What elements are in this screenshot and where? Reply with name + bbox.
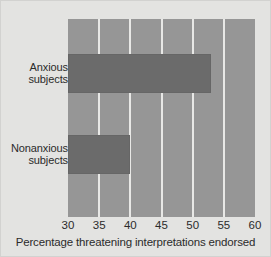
category-label: Anxioussubjects bbox=[0, 61, 68, 86]
category-label-line: subjects bbox=[0, 73, 68, 86]
x-tick-label: 60 bbox=[249, 219, 262, 231]
x-tick-label: 30 bbox=[62, 219, 75, 231]
category-label: Nonanxioussubjects bbox=[0, 142, 68, 167]
gridline-40 bbox=[129, 19, 131, 217]
gridline-35 bbox=[98, 19, 100, 217]
category-label-line: Nonanxious bbox=[0, 142, 68, 155]
x-tick-label: 40 bbox=[124, 219, 137, 231]
x-axis-tick-labels: 30354045505560 bbox=[68, 219, 255, 235]
x-tick-label: 55 bbox=[217, 219, 230, 231]
bar bbox=[68, 54, 211, 93]
x-tick-label: 45 bbox=[155, 219, 168, 231]
gridline-45 bbox=[161, 19, 163, 217]
gridline-50 bbox=[192, 19, 194, 217]
x-axis-title: Percentage threatening interpretations e… bbox=[0, 236, 271, 248]
x-tick-label: 35 bbox=[93, 219, 106, 231]
bar bbox=[68, 135, 130, 174]
chart-figure: AnxioussubjectsNonanxioussubjects 303540… bbox=[0, 0, 271, 257]
category-label-line: Anxious bbox=[0, 61, 68, 74]
gridline-55 bbox=[223, 19, 225, 217]
x-tick-label: 50 bbox=[186, 219, 199, 231]
plot-area bbox=[68, 19, 255, 217]
category-label-line: subjects bbox=[0, 154, 68, 167]
